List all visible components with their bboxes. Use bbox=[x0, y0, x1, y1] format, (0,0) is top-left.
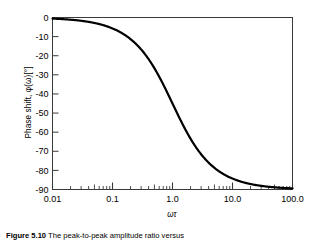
y-tick-label: -60 bbox=[35, 127, 48, 137]
y-axis-label-symbol: φ(ω)[°] bbox=[24, 66, 33, 92]
figure-caption: Figure 5.10 The peak-to-peak amplitude r… bbox=[6, 231, 316, 242]
x-tick-label: 1.0 bbox=[166, 194, 179, 204]
figure-container: 0-10-20-30-40-50-60-70-80-90 0.010.11.01… bbox=[0, 0, 320, 242]
y-axis-label-text: Phase shift, bbox=[24, 92, 33, 138]
caption-text: The peak-to-peak amplitude ratio versus bbox=[48, 231, 184, 240]
caption-label: Figure 5.10 bbox=[6, 231, 46, 240]
y-tick-label: -50 bbox=[35, 108, 48, 118]
x-axis-label: ωτ bbox=[52, 210, 292, 219]
y-tick-label: -80 bbox=[35, 166, 48, 176]
y-tick-label: -70 bbox=[35, 146, 48, 156]
y-tick-label: -10 bbox=[35, 32, 48, 42]
phase-shift-plot: 0-10-20-30-40-50-60-70-80-90 0.010.11.01… bbox=[0, 0, 320, 230]
x-tick-label: 0.01 bbox=[44, 194, 62, 204]
y-tick-label: -40 bbox=[35, 89, 48, 99]
y-tick-label: -20 bbox=[35, 51, 48, 61]
y-axis-label: Phase shift, φ(ω)[°] bbox=[24, 18, 33, 188]
y-tick-label: -30 bbox=[35, 70, 48, 80]
x-tick-label: 100.0 bbox=[281, 194, 304, 204]
x-tick-label: 10.0 bbox=[224, 194, 242, 204]
chart-area: 0-10-20-30-40-50-60-70-80-90 0.010.11.01… bbox=[0, 0, 320, 230]
y-tick-label: 0 bbox=[43, 13, 48, 23]
x-tick-label: 0.1 bbox=[106, 194, 119, 204]
